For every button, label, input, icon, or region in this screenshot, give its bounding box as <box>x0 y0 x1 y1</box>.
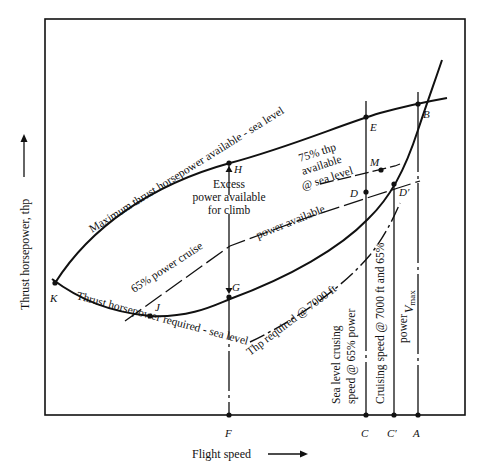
excess-label-3: for climb <box>208 204 251 216</box>
label-d-prime: D′ <box>398 186 410 198</box>
cruise-7000-label-1: Cruising speed @ 7000 ft and 65% <box>374 242 387 404</box>
point-h <box>226 160 231 165</box>
excess-label-1: Excess <box>213 178 245 190</box>
sl-cruise-label-2: speed @ 65% power <box>345 309 358 404</box>
point-b <box>415 101 420 106</box>
point-d-prime <box>391 181 396 186</box>
vmax-label: Vmax <box>402 290 417 313</box>
label-c: C <box>361 427 369 439</box>
excess-arrow-up-icon <box>226 166 233 172</box>
point-k <box>52 280 57 285</box>
label-d: D <box>349 187 358 199</box>
x-axis-label: Flight speed <box>192 447 251 461</box>
label-m: M <box>369 156 380 168</box>
point-c <box>363 412 368 417</box>
point-e <box>363 114 368 119</box>
label-f: F <box>224 427 232 439</box>
label-b: B <box>423 108 430 120</box>
max-thp-available-label: Maximum thrust horsepower available - se… <box>87 104 287 236</box>
point-f <box>226 412 231 417</box>
label-k: K <box>49 292 58 304</box>
y-axis-arrow-icon <box>21 134 28 142</box>
sl-cruise-label-1: Sea level crusing <box>330 325 343 404</box>
cruise-7000-label-2: power <box>397 314 410 343</box>
label-e: E <box>369 121 377 133</box>
excess-label-2: power available <box>192 191 265 204</box>
point-c-prime <box>391 412 396 417</box>
point-a <box>415 412 420 417</box>
label-a: A <box>412 427 420 439</box>
label-g: G <box>232 281 240 293</box>
label-c-prime: C′ <box>387 427 397 439</box>
power-available-label: power available <box>254 202 327 241</box>
cruise-65-label: 65% power cruise <box>129 239 206 295</box>
point-g <box>226 294 231 299</box>
thrust-horsepower-diagram: H G J K E D M D′ B F C C′ A Maximum thru… <box>0 0 480 474</box>
point-d <box>363 189 368 194</box>
y-axis-label: Thrust horsepower, thp <box>18 199 32 310</box>
label-h: H <box>233 163 243 175</box>
point-m <box>378 167 383 172</box>
thp-required-label-a: Thrust horsepower required - sea level <box>75 289 250 347</box>
thp-required-7000-label: Thp required @ 7000 ft <box>244 282 339 358</box>
x-axis-arrow-icon <box>300 451 308 458</box>
